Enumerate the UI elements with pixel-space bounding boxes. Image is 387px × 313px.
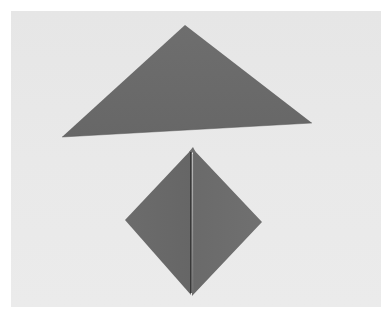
folded-triangle	[62, 25, 312, 137]
image-frame	[0, 0, 387, 313]
diamond-top-flap	[189, 147, 196, 153]
folded-diamond-left	[125, 150, 191, 295]
origami-scene	[0, 0, 387, 313]
folded-diamond-right	[192, 149, 262, 296]
